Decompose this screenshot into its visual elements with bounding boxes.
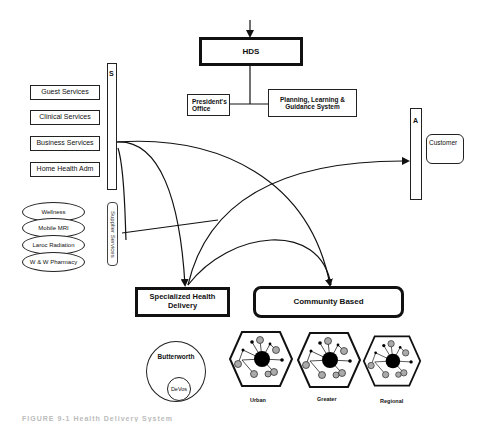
planning-label: Planning, Learning & Guidance System	[279, 96, 346, 111]
network-hexagon-urban	[228, 330, 294, 388]
supplier-oval-pharmacy: W & W Pharmacy	[22, 252, 85, 272]
service-label: Clinical Services	[39, 113, 90, 121]
service-label: Home Health Adm	[37, 165, 94, 173]
network-label-greater: Greater	[317, 396, 337, 402]
customer-label: Customer	[429, 139, 457, 146]
network-label-regional: Regional	[380, 398, 403, 404]
supplier-label: Wellness	[41, 209, 65, 216]
figure-caption: FIGURE 9-1 Health Delivery System	[22, 415, 173, 422]
specialized-delivery-box: Specialized Health Delivery	[135, 287, 230, 317]
presidents-office-box: President's Office	[187, 94, 230, 116]
service-box-home-health: Home Health Adm	[30, 162, 100, 177]
service-box-clinical: Clinical Services	[30, 110, 100, 125]
community-based-label: Community Based	[293, 297, 363, 306]
supplier-label: W & W Pharmacy	[30, 259, 77, 266]
service-label: Guest Services	[41, 88, 88, 96]
specialized-delivery-label: Specialized Health Delivery	[138, 293, 227, 310]
support-bar: S	[107, 63, 117, 190]
network-hexagon-greater	[296, 331, 362, 389]
supplier-services-bar: Supplier Services	[107, 202, 118, 266]
devos-label: DeVos	[171, 386, 187, 392]
supplier-label: Mobile MRI	[38, 225, 68, 232]
hds-label: HDS	[243, 47, 260, 56]
planning-box: Planning, Learning & Guidance System	[268, 89, 357, 117]
support-bar-label: S	[109, 70, 114, 77]
service-box-business: Business Services	[30, 136, 100, 151]
presidents-office-label: President's Office	[192, 98, 229, 113]
butterworth-label: Butterworth	[147, 353, 205, 360]
access-bar-label: A	[413, 117, 418, 124]
hds-box: HDS	[199, 37, 303, 66]
service-box-guest: Guest Services	[30, 85, 100, 100]
service-label: Business Services	[36, 139, 93, 147]
supplier-label: Laroc Radiation	[32, 242, 74, 249]
butterworth-circle: Butterworth DeVos	[146, 341, 206, 402]
devos-circle: DeVos	[167, 377, 191, 401]
network-label-urban: Urban	[250, 397, 266, 403]
supplier-services-label: Supplier Services	[110, 211, 116, 258]
network-hexagon-regional	[362, 333, 422, 389]
community-based-box: Community Based	[253, 286, 404, 318]
access-bar: A	[410, 108, 422, 200]
customer-box: Customer	[426, 134, 464, 164]
